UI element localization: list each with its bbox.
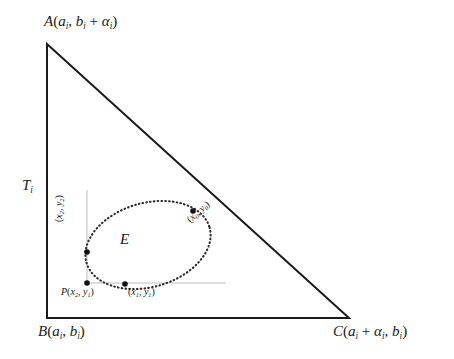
vertex-A-y2-var: α [102, 13, 110, 29]
comma: , [53, 206, 64, 211]
vertex-C-y-var: b [392, 323, 400, 339]
paren-close: ) [91, 286, 94, 297]
paren-close: ) [80, 323, 85, 339]
vertex-label-C: C(ai + αi, bi) [333, 324, 407, 339]
point-x1-y1 [122, 281, 128, 287]
triangle-outline [47, 44, 349, 318]
paren-close: ) [151, 286, 154, 297]
point-x2-y2 [84, 249, 90, 255]
point-label-x1-y1: (x1, y1) [128, 287, 155, 297]
paren-close: ) [402, 323, 407, 339]
vertex-label-B: B(ai, bi) [38, 324, 85, 339]
comma: , [68, 13, 76, 29]
point-label-P: P(x2, y1) [61, 287, 94, 297]
plus-sign: + [86, 13, 102, 29]
point-y2-var: y [53, 202, 64, 206]
paren-close: ) [112, 13, 117, 29]
plus-sign: + [358, 323, 374, 339]
vertex-label-A: A(ai, bi + αi) [44, 14, 117, 29]
paren-close: ) [53, 195, 64, 198]
vertex-A-name: A [44, 13, 53, 29]
vertex-B-x-var: a [52, 323, 60, 339]
vertex-C-x1-var: a [348, 323, 356, 339]
point-P-x2-y1 [84, 280, 90, 286]
geometry-figure: A(ai, bi + αi) B(ai, bi) C(ai + αi, bi) … [0, 0, 454, 359]
vertex-B-name: B [38, 323, 47, 339]
vertex-C-x2-var: α [374, 323, 382, 339]
point-label-x2-y2: (x2, y2) [54, 195, 64, 222]
comma: , [62, 323, 70, 339]
point-x2-var: x [53, 214, 64, 218]
diagram-canvas [0, 0, 454, 359]
vertex-A-x-var: a [58, 13, 66, 29]
comma: , [385, 323, 393, 339]
ellipse-label-E: E [120, 232, 129, 247]
point-x2-sub: 2 [58, 211, 65, 214]
triangle-label-sub: i [30, 185, 33, 195]
triangle-label-T: Ti [22, 178, 33, 193]
vertex-C-name: C [333, 323, 343, 339]
point-y2-sub: 2 [58, 199, 65, 202]
paren-open: ( [53, 219, 64, 222]
